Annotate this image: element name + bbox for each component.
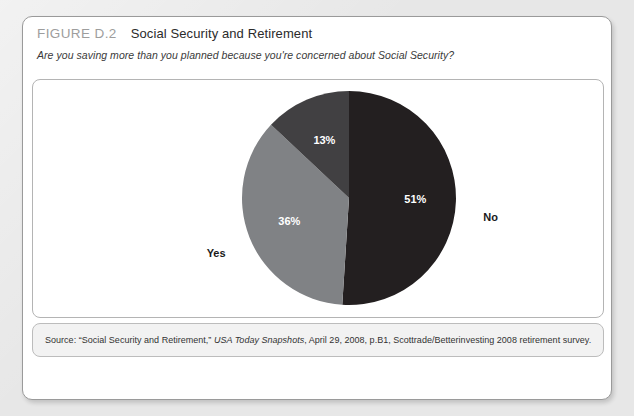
pie-label-no: No [483,211,498,223]
figure-question: Are you saving more than you planned bec… [37,49,597,61]
pie-value-yes: 36% [278,215,300,227]
source-note: Source: “Social Security and Retirement,… [45,335,591,345]
source-panel: Source: “Social Security and Retirement,… [32,323,604,357]
pie-chart: 51%36%13% NoYesNot sure [33,80,604,318]
figure-header: FIGURE D.2 Social Security and Retiremen… [23,17,611,79]
figure-number: FIGURE D.2 [37,26,117,41]
pie-value-no: 51% [404,193,426,205]
figure-title-row: FIGURE D.2 Social Security and Retiremen… [37,26,597,41]
figure-card: FIGURE D.2 Social Security and Retiremen… [22,16,612,400]
figure-title: Social Security and Retirement [131,26,312,41]
pie-chart-svg: 51%36%13% NoYesNot sure [33,80,604,318]
figure-page: FIGURE D.2 Social Security and Retiremen… [0,0,634,416]
source-prefix: Source: “Social Security and Retirement,… [45,335,214,345]
pie-slice-no [342,91,456,305]
source-publication: USA Today Snapshots [214,335,304,345]
source-suffix: , April 29, 2008, p.B1, Scottrade/Better… [304,335,591,345]
pie-label-yes: Yes [207,247,226,259]
pie-value-not-sure: 13% [313,134,335,146]
chart-panel: 51%36%13% NoYesNot sure [32,79,604,318]
